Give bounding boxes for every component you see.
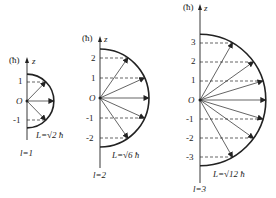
z-axis-label: z: [32, 56, 36, 66]
diagram-l2: [98, 36, 149, 168]
magnitude-label: L=√6 ħ: [112, 150, 139, 160]
tick-label: 1: [91, 73, 96, 83]
origin-label: O: [16, 96, 23, 106]
tick-label: -2: [86, 133, 94, 143]
magnitude-label: L=√12 ħ: [213, 169, 245, 179]
tick-label: -2: [186, 133, 194, 143]
z-axis-label: z: [104, 34, 108, 44]
diagram-l3: [198, 4, 266, 183]
z-axis-label: z: [204, 3, 208, 13]
tick-label: 3: [191, 37, 196, 47]
tick-label: 1: [191, 75, 196, 85]
tick-label: -1: [86, 113, 94, 123]
tick-label: -1: [186, 114, 194, 124]
unit-label: (ħ): [82, 33, 93, 43]
tick-label: -3: [186, 152, 194, 162]
quantum-number-label: l=1: [20, 148, 33, 158]
quantum-number-label: l=3: [193, 184, 206, 194]
unit-label: (ħ): [9, 55, 20, 65]
magnitude-label: L=√2 ħ: [36, 130, 63, 140]
diagram-l1: [25, 57, 54, 140]
tick-label: 2: [191, 56, 196, 66]
tick-label: 1: [18, 76, 23, 86]
tick-label: -1: [13, 115, 21, 125]
tick-label: 2: [91, 53, 96, 63]
origin-label: O: [188, 95, 195, 105]
quantum-number-label: l=2: [93, 170, 106, 180]
unit-label: (ħ): [183, 2, 194, 12]
origin-label: O: [89, 93, 96, 103]
